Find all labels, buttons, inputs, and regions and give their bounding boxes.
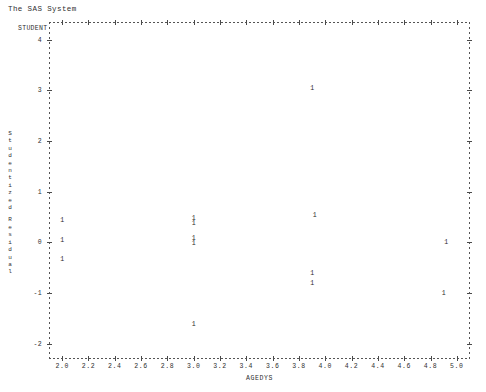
- data-point: 1: [310, 281, 314, 288]
- x-tick-label: 4.0: [319, 363, 333, 370]
- y-tick-left: [47, 192, 52, 193]
- x-tick-top: [88, 20, 89, 25]
- y-tick-right: [467, 90, 472, 91]
- y-axis-title-char: z: [5, 189, 15, 196]
- axis-top-line: [49, 22, 470, 23]
- data-point: 1: [444, 240, 448, 247]
- data-point: 1: [310, 271, 314, 278]
- x-tick-bottom: [115, 356, 116, 361]
- x-tick-top: [404, 20, 405, 25]
- y-tick-right: [467, 141, 472, 142]
- y-axis-title-char: d: [5, 152, 15, 159]
- y-tick-left: [47, 90, 52, 91]
- y-tick-label: 0: [28, 239, 42, 246]
- y-axis-title-char: t: [5, 174, 15, 181]
- y-axis-title-char: l: [5, 268, 15, 275]
- page-title: The SAS System: [8, 5, 77, 13]
- x-tick-bottom: [246, 356, 247, 361]
- x-tick-bottom: [88, 356, 89, 361]
- y-tick-label: 3: [28, 87, 42, 94]
- y-tick-left: [47, 344, 52, 345]
- x-tick-label: 4.8: [424, 363, 438, 370]
- y-tick-label: -2: [28, 340, 42, 347]
- y-axis-title-char: u: [5, 145, 15, 152]
- x-tick-top: [299, 20, 300, 25]
- y-axis-title-char: t: [5, 137, 15, 144]
- y-tick-right: [467, 40, 472, 41]
- y-axis-title-char: n: [5, 167, 15, 174]
- data-point: 1: [310, 86, 314, 93]
- y-axis-title-char: e: [5, 224, 15, 231]
- x-tick-bottom: [194, 356, 195, 361]
- x-tick-bottom: [378, 356, 379, 361]
- x-tick-bottom: [325, 356, 326, 361]
- x-tick-label: 3.6: [266, 363, 280, 370]
- axis-right-line: [469, 22, 470, 359]
- x-tick-bottom: [457, 356, 458, 361]
- y-axis-title-char: e: [5, 197, 15, 204]
- y-tick-label: 2: [28, 138, 42, 145]
- data-point: 1: [192, 221, 196, 228]
- x-tick-bottom: [299, 356, 300, 361]
- data-point: 1: [442, 291, 446, 298]
- y-tick-left: [47, 242, 52, 243]
- y-tick-label: 4: [28, 36, 42, 43]
- y-tick-label: -1: [28, 290, 42, 297]
- y-axis-title-char: d: [5, 204, 15, 211]
- x-tick-label: 4.2: [345, 363, 359, 370]
- x-tick-bottom: [141, 356, 142, 361]
- x-tick-label: 4.4: [371, 363, 385, 370]
- y-axis-title-char: S: [5, 130, 15, 137]
- x-tick-bottom: [273, 356, 274, 361]
- y-axis-title-char: u: [5, 254, 15, 261]
- data-point: 1: [60, 218, 64, 225]
- x-tick-label: 3.2: [213, 363, 227, 370]
- data-point: 1: [60, 238, 64, 245]
- x-tick-top: [352, 20, 353, 25]
- x-tick-label: 2.2: [82, 363, 96, 370]
- x-tick-bottom: [431, 356, 432, 361]
- data-point: 1: [313, 213, 317, 220]
- x-tick-top: [273, 20, 274, 25]
- x-tick-bottom: [220, 356, 221, 361]
- x-tick-label: 3.4: [240, 363, 254, 370]
- student-corner-label: STUDENT: [18, 25, 47, 32]
- x-tick-bottom: [62, 356, 63, 361]
- y-tick-left: [47, 293, 52, 294]
- x-tick-top: [167, 20, 168, 25]
- x-tick-top: [378, 20, 379, 25]
- data-point: 1: [60, 256, 64, 263]
- y-axis-title-char: i: [5, 182, 15, 189]
- y-tick-right: [467, 293, 472, 294]
- y-axis-title-char: e: [5, 160, 15, 167]
- data-point: 1: [192, 321, 196, 328]
- y-axis-title-char: R: [5, 216, 15, 223]
- x-tick-top: [141, 20, 142, 25]
- x-tick-label: 2.8: [161, 363, 175, 370]
- y-axis-title-char: i: [5, 239, 15, 246]
- y-axis-title-char: a: [5, 261, 15, 268]
- axis-left-line: [49, 22, 50, 359]
- x-tick-label: 5.0: [450, 363, 464, 370]
- data-point: 1: [192, 241, 196, 248]
- x-tick-top: [325, 20, 326, 25]
- sas-plot-page: The SAS System STUDENT 11111111111111 2.…: [0, 0, 486, 392]
- y-tick-right: [467, 192, 472, 193]
- y-axis-title-char: s: [5, 231, 15, 238]
- plot-area: 11111111111111: [49, 22, 470, 359]
- x-tick-label: 2.6: [134, 363, 148, 370]
- x-axis-title: AGEDYS: [49, 375, 470, 382]
- y-tick-left: [47, 141, 52, 142]
- y-axis-title: StudentizedResidual: [5, 130, 15, 276]
- x-tick-top: [457, 20, 458, 25]
- x-tick-bottom: [167, 356, 168, 361]
- axis-bottom-line: [49, 358, 470, 359]
- x-tick-top: [115, 20, 116, 25]
- x-tick-label: 3.8: [292, 363, 306, 370]
- y-tick-label: 1: [28, 188, 42, 195]
- x-tick-top: [220, 20, 221, 25]
- x-tick-label: 2.0: [55, 363, 69, 370]
- x-tick-label: 3.0: [187, 363, 201, 370]
- y-tick-left: [47, 40, 52, 41]
- x-tick-label: 2.4: [108, 363, 122, 370]
